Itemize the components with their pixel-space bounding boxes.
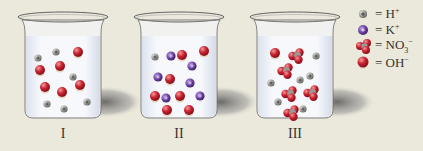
hydroxide-ion — [57, 87, 67, 99]
legend-charge: + — [395, 6, 400, 15]
k-plus-ion — [166, 51, 175, 60]
beaker-1 — [18, 12, 143, 118]
beaker-label-1: I — [61, 126, 66, 142]
hydroxide-ion — [177, 50, 187, 62]
h-plus-ion — [34, 54, 41, 61]
hydroxide-ion — [165, 74, 175, 86]
hydroxide-ion — [270, 48, 280, 60]
legend-charge: − — [404, 55, 409, 64]
h-plus-ion — [151, 53, 158, 60]
hydroxide-ion — [35, 65, 45, 77]
legend-label: = H — [375, 6, 395, 21]
h-plus-ion — [312, 52, 319, 59]
h-plus-icon — [355, 6, 371, 22]
k-plus-ion — [187, 61, 196, 70]
hydroxide-ion — [73, 47, 83, 59]
k-plus-ion — [161, 93, 170, 102]
k-plus-icon — [355, 22, 371, 38]
legend-item-hydroxide: = OH− — [355, 55, 371, 71]
k-plus-ion — [195, 91, 204, 100]
h-plus-ion — [83, 98, 90, 105]
legend-charge: − — [408, 37, 413, 46]
h-plus-ion — [299, 105, 306, 112]
legend-item-k-plus: = K+ — [355, 22, 371, 38]
k-plus-ion — [185, 78, 194, 87]
legend-charge: + — [395, 22, 400, 31]
hydroxide-ion — [162, 105, 172, 117]
legend-label: = OH — [375, 55, 404, 70]
beaker-label-3: III — [288, 126, 302, 142]
h-plus-ion — [267, 79, 274, 86]
h-plus-ion — [52, 48, 59, 55]
hydroxide-ion — [150, 91, 160, 103]
h-plus-ion — [296, 76, 303, 83]
hydroxide-ion — [75, 80, 85, 92]
legend-item-nitrate: = NO3− — [355, 38, 373, 54]
h-plus-ion — [69, 73, 76, 80]
hydroxide-ion — [55, 61, 65, 73]
h-plus-ion — [43, 100, 50, 107]
hydroxide-ion — [40, 82, 50, 94]
h-plus-ion — [60, 105, 67, 112]
legend-sub: 3 — [404, 46, 408, 55]
h-plus-ion — [274, 98, 281, 105]
nitrate-icon — [355, 38, 373, 54]
legend-label: = K — [375, 22, 395, 37]
beaker-2 — [134, 12, 259, 118]
hydroxide-ion — [175, 91, 185, 103]
hydroxide-ion — [184, 105, 194, 117]
hydroxide-ion — [199, 46, 209, 58]
legend-item-h-plus: = H+ — [355, 6, 371, 22]
legend-label: = NO — [375, 37, 404, 52]
solution — [258, 36, 332, 117]
beaker-label-2: II — [174, 126, 183, 142]
h-plus-ion — [306, 72, 313, 79]
k-plus-ion — [153, 72, 162, 81]
hydroxide-icon — [355, 55, 371, 71]
